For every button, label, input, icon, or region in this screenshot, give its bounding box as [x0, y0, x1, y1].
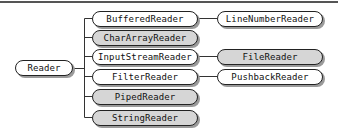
node-stringreader: StringReader: [92, 110, 198, 126]
node-filterreader: FilterReader: [92, 69, 198, 85]
node-filereader: FileReader: [217, 49, 323, 65]
node-inputstreamreader: InputStreamReader: [92, 49, 198, 65]
node-reader: Reader: [15, 60, 73, 76]
node-pushbackreader: PushbackReader: [217, 69, 323, 85]
node-pipedreader: PipedReader: [92, 89, 198, 105]
node-bufferedreader: BufferedReader: [92, 11, 198, 27]
node-linenumberreader: LineNumberReader: [217, 11, 323, 27]
node-chararrayreader: CharArrayReader: [92, 30, 198, 46]
